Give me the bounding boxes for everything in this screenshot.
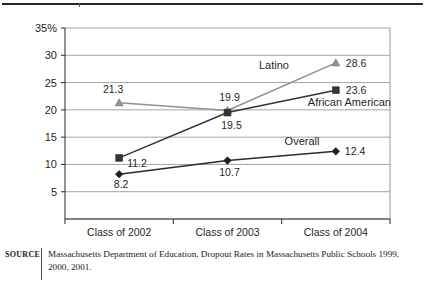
y-axis-tick-label: 25 bbox=[45, 77, 57, 89]
series-marker bbox=[115, 170, 123, 178]
series-name-label: African American bbox=[308, 96, 391, 108]
y-axis-tick-label: 20 bbox=[45, 104, 57, 116]
series-marker bbox=[116, 154, 123, 161]
x-axis-category-labels: Class of 2002Class of 2003Class of 2004 bbox=[87, 226, 368, 238]
y-axis-tick-label: 5 bbox=[51, 186, 57, 198]
source-text: Massachusetts Department of Education, D… bbox=[48, 248, 420, 273]
data-point-label: 21.3 bbox=[103, 83, 124, 95]
series-name-label: Latino bbox=[259, 59, 289, 71]
source-tag: SOURCE bbox=[5, 250, 40, 259]
source-divider bbox=[41, 248, 42, 280]
data-point-label: 8.2 bbox=[114, 178, 129, 190]
figure-root: 5101520253035% Class of 2002Class of 200… bbox=[0, 0, 425, 286]
source-note: SOURCE Massachusetts Department of Educa… bbox=[0, 246, 425, 280]
data-point-label: 23.6 bbox=[346, 84, 367, 96]
series-marker bbox=[332, 87, 339, 94]
x-axis-category-label: Class of 2004 bbox=[304, 226, 368, 238]
top-rule bbox=[2, 3, 423, 5]
data-point-label: 28.6 bbox=[346, 57, 367, 69]
y-axis-tick-label: 30 bbox=[45, 49, 57, 61]
x-axis-category-label: Class of 2002 bbox=[87, 226, 151, 238]
data-point-label: 19.9 bbox=[219, 91, 240, 103]
series-marker bbox=[332, 59, 340, 66]
series-marker bbox=[224, 157, 232, 165]
series-name-labels: LatinoAfrican AmericanOverall bbox=[259, 59, 391, 147]
y-axis-tick-label: 15 bbox=[45, 131, 57, 143]
series-name-label: Overall bbox=[285, 135, 320, 147]
y-axis-tick-label: 10 bbox=[45, 158, 57, 170]
line-chart: 5101520253035% Class of 2002Class of 200… bbox=[0, 14, 425, 239]
data-point-label: 12.4 bbox=[345, 145, 366, 157]
data-point-labels: 21.319.928.611.219.523.68.210.712.4 bbox=[103, 57, 366, 190]
series-marker bbox=[332, 148, 340, 156]
data-point-label: 19.5 bbox=[221, 119, 242, 131]
data-point-label: 11.2 bbox=[127, 157, 147, 169]
y-axis-tick-label: 35% bbox=[35, 22, 57, 34]
top-rule-tick bbox=[79, 3, 80, 7]
x-axis-ticks bbox=[65, 219, 390, 224]
y-axis-tick-labels: 5101520253035% bbox=[35, 22, 57, 198]
data-point-label: 10.7 bbox=[219, 166, 240, 178]
x-axis-category-label: Class of 2003 bbox=[195, 226, 259, 238]
series-marker bbox=[224, 109, 231, 116]
